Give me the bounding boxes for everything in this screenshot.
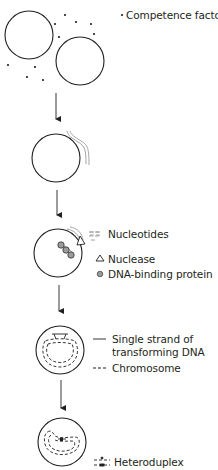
single-strand-label-line1: Single strand of (112, 333, 193, 345)
step-5-cell (38, 418, 86, 466)
step-3-cell (34, 227, 99, 277)
nucleotides-label: Nucleotides (108, 228, 169, 240)
step-2-cell (32, 131, 89, 182)
chromosome-loop (43, 339, 78, 367)
chromosome-with-heteroduplex (44, 431, 79, 455)
single-strand-transforming-dna (52, 334, 68, 339)
heteroduplex-label: Heteroduplex (114, 456, 184, 468)
step-1-cells (5, 11, 104, 85)
nuclease-icon (77, 236, 85, 245)
competence-factor-label: Competence factor (126, 9, 218, 21)
nuclease-legend-icon (96, 255, 104, 261)
nucleotides-legend-icon (90, 232, 100, 235)
dna-binding-protein-label: DNA-binding protein (108, 268, 213, 280)
cell-right (56, 37, 104, 85)
single-strand-label-line2: transforming DNA (112, 346, 205, 358)
cell-left (5, 11, 53, 59)
heteroduplex-marker-icon (60, 438, 63, 441)
dna-binding-protein-legend-icon (97, 271, 103, 277)
nucleotide-fragments (89, 232, 99, 240)
cell (38, 418, 86, 466)
nuclease-label: Nuclease (108, 253, 155, 265)
cell (32, 134, 80, 182)
cell (34, 229, 82, 277)
heteroduplex-legend-icon (94, 457, 110, 466)
step-4-cell (36, 326, 84, 374)
dna-binding-proteins (58, 242, 74, 258)
chromosome-label: Chromosome (112, 362, 181, 374)
competence-factor-dots (7, 14, 95, 81)
competence-factor-bullet-icon (121, 14, 123, 16)
